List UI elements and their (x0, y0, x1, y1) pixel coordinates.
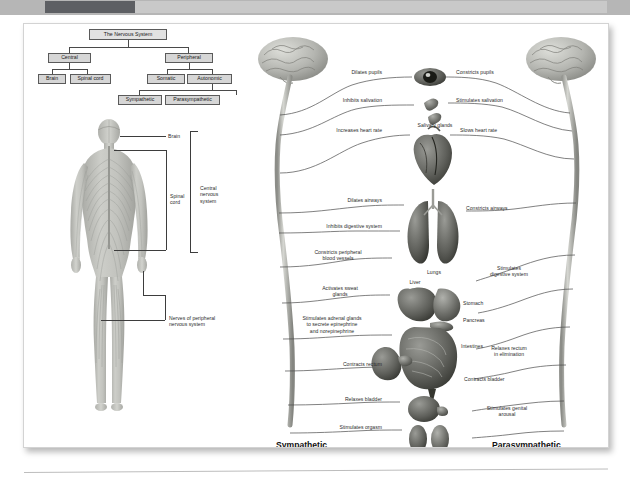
leader-line-spinal-cord (114, 150, 166, 151)
tree-node-central: Central (48, 53, 91, 63)
organ-lungs (407, 189, 458, 264)
label-parasympathetic-stimulates-genital-arousal: Stimulates genital arousal (464, 405, 550, 418)
top-scrollbar[interactable] (0, 0, 630, 15)
label-sympathetic-stimulates-adrenal-glands: Stimulates adrenal glands to secrete epi… (280, 315, 384, 334)
label-organ-lungs: Lungs (414, 269, 454, 275)
label-organ-stomach: Stomach (463, 300, 501, 306)
label-organ-salivary-glands: Salivary glands (400, 122, 470, 128)
organ-liver (398, 287, 437, 321)
label-sympathetic-increases-heart-rate: Increases heart rate (290, 127, 382, 133)
nervous-system-hierarchy-diagram: The Nervous System Central Peripheral Br… (34, 27, 224, 117)
label-organ-liver: Liver (398, 279, 432, 285)
tree-connector (128, 40, 129, 47)
body-silhouette-illustration (66, 119, 171, 419)
label-parasympathetic-constricts-airways: Constricts airways (466, 205, 552, 211)
label-sympathetic-constricts-blood-vessels: Constricts peripheral blood vessels (292, 249, 384, 262)
label-parasympathetic-stimulates-digestive-system: Stimulates digestive system (468, 265, 550, 278)
tree-node-sympathetic: Sympathetic (118, 95, 162, 105)
label-parasympathetic-slows-heart-rate: Slows heart rate (460, 127, 546, 133)
organ-heart (414, 126, 452, 185)
leader-line-peripheral-nerves (165, 295, 166, 320)
leader-line-peripheral-nerves (143, 295, 165, 296)
heading-sympathetic: Sympathetic (276, 440, 327, 448)
leader-line-peripheral-nerves (143, 271, 144, 295)
label-parasympathetic-stimulates-salivation: Stimulates salivation (456, 97, 546, 103)
label-central-nervous-system: Central nervous system (200, 185, 232, 204)
label-parasympathetic-contracts-bladder: Contracts bladder (464, 376, 550, 382)
tree-node-root: The Nervous System (89, 29, 167, 40)
tree-node-peripheral: Peripheral (165, 53, 213, 63)
organ-eye (414, 68, 446, 86)
tree-node-spinal-cord: Spinal cord (70, 74, 111, 84)
organ-bladder (408, 396, 448, 422)
tree-connector (139, 90, 236, 91)
leader-line-brain (120, 136, 166, 137)
tree-node-somatic: Somatic (147, 74, 185, 84)
human-nervous-system-figure: Brain Spinal cord Central nervous system… (66, 119, 171, 419)
label-organ-intestines: Intestines (461, 343, 499, 349)
organ-salivary-glands (424, 98, 441, 124)
leader-line-peripheral-nerves (101, 320, 165, 321)
label-sympathetic-inhibits-digestive-system: Inhibits digestive system (284, 223, 382, 229)
tree-connector (236, 90, 237, 95)
label-sympathetic-inhibits-salivation: Inhibits salivation (298, 97, 382, 103)
label-organ-pancreas: Pancreas (463, 317, 501, 323)
organ-stomach (433, 289, 460, 322)
label-sympathetic-contracts-rectum: Contracts rectum (298, 361, 382, 367)
leader-line-spinal-cord (166, 150, 167, 250)
tree-node-parasympathetic: Parasympathetic (165, 95, 220, 105)
tree-node-autonomic: Autonomic (187, 74, 232, 84)
autonomic-nervous-system-diagram: Dilates pupils Inhibits salivation Incre… (252, 27, 602, 447)
label-sympathetic-stimulates-orgasm: Stimulates orgasm (300, 424, 382, 430)
heading-parasympathetic: Parasympathetic (492, 440, 561, 448)
document-page: The Nervous System Central Peripheral Br… (23, 23, 609, 448)
organ-genitals (409, 425, 449, 448)
tree-node-brain: Brain (38, 74, 66, 84)
organ-intestines (400, 327, 458, 405)
scrollbar-thumb[interactable] (45, 1, 135, 13)
tree-connector (69, 47, 188, 48)
label-parasympathetic-constricts-pupils: Constricts pupils (456, 69, 538, 75)
tree-connector (52, 69, 87, 70)
ans-illustration (252, 27, 602, 447)
label-sympathetic-dilates-airways: Dilates airways (298, 197, 382, 203)
leader-line-spinal-cord (114, 250, 166, 251)
label-sympathetic-relaxes-bladder: Relaxes bladder (304, 396, 382, 402)
label-sympathetic-activates-sweat-glands: Activates sweat glands (298, 285, 382, 298)
page-divider-rule (24, 468, 608, 473)
tree-connector (167, 69, 212, 70)
bracket-central-nervous-system (190, 131, 198, 253)
brain-right (526, 37, 596, 83)
label-sympathetic-dilates-pupils: Dilates pupils (304, 69, 382, 75)
brain-left (258, 37, 328, 83)
label-peripheral-nerves: Nerves of peripheral nervous system (169, 315, 239, 328)
